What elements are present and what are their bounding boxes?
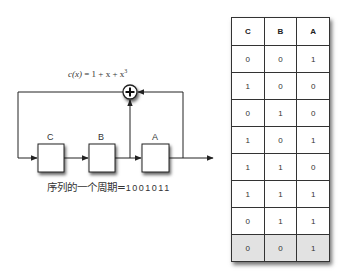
lfsr-diagram — [0, 0, 230, 279]
cell: 0 — [264, 73, 297, 100]
cell: 0 — [297, 100, 330, 127]
table-row-highlighted: 001 — [232, 235, 330, 262]
table-row: 101 — [232, 127, 330, 154]
formula-exponent: 3 — [124, 68, 127, 74]
cell: 1 — [264, 181, 297, 208]
cell: 1 — [297, 208, 330, 235]
header-a: A — [297, 18, 330, 46]
cell: 1 — [264, 208, 297, 235]
polynomial-formula: c(x) = 1 + x + x3 — [68, 68, 127, 79]
table-row: 100 — [232, 73, 330, 100]
cell: 0 — [232, 100, 265, 127]
cell: 1 — [297, 46, 330, 73]
register-c-label: C — [47, 132, 54, 142]
cell: 0 — [297, 154, 330, 181]
cell: 0 — [264, 235, 297, 262]
table-row: 110 — [232, 154, 330, 181]
cell: 0 — [264, 127, 297, 154]
table-row: 111 — [232, 181, 330, 208]
cell: 1 — [232, 181, 265, 208]
register-a-label: A — [152, 132, 158, 142]
cell: 1 — [264, 154, 297, 181]
table-row: 010 — [232, 100, 330, 127]
cell: 1 — [232, 127, 265, 154]
cell: 1 — [297, 127, 330, 154]
table-row: 011 — [232, 208, 330, 235]
cell: 0 — [232, 46, 265, 73]
sequence-caption: 序列的一个周期=1001011 — [47, 179, 171, 194]
cell: 1 — [297, 181, 330, 208]
register-a — [142, 144, 169, 172]
caption-text: 序列的一个周期= — [47, 181, 126, 193]
register-b-label: B — [98, 132, 104, 142]
cell: 0 — [232, 235, 265, 262]
cell: 1 — [264, 100, 297, 127]
header-c: C — [232, 18, 265, 46]
cell: 1 — [297, 235, 330, 262]
cell: 0 — [264, 46, 297, 73]
caption-sequence: 1001011 — [126, 183, 171, 193]
formula-lhs: c(x) — [68, 69, 82, 79]
register-c — [38, 144, 64, 172]
formula-rhs: = 1 + x + x — [84, 69, 124, 79]
cell: 0 — [297, 73, 330, 100]
register-b — [89, 144, 115, 172]
cell: 1 — [232, 154, 265, 181]
cell: 0 — [232, 208, 265, 235]
cell: 1 — [232, 73, 265, 100]
header-b: B — [264, 18, 297, 46]
table-header-row: C B A — [232, 18, 330, 46]
xor-icon — [123, 85, 137, 99]
state-table: C B A 001 100 010 101 110 111 011 001 — [231, 17, 330, 262]
table-row: 001 — [232, 46, 330, 73]
